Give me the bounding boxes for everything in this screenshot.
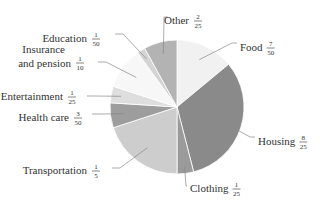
slice-name: Food xyxy=(240,41,263,53)
fraction-denominator: 50 xyxy=(75,119,83,127)
fraction-numerator: 1 xyxy=(94,31,98,39)
slice-label: Insuranceand pension110 xyxy=(18,43,84,72)
slice-label: Transportation15 xyxy=(23,163,100,180)
slice-label: Health care350 xyxy=(19,110,82,127)
slice-name: Other xyxy=(164,14,189,26)
pie-chart: Food750Housing825Clothing125Transportati… xyxy=(0,0,320,208)
fraction-numerator: 1 xyxy=(235,181,239,189)
slice-name: and pension xyxy=(18,57,71,69)
slice-name: Health care xyxy=(19,111,69,123)
slice-label: Food750 xyxy=(240,40,275,57)
fraction-denominator: 50 xyxy=(93,40,101,48)
slice-label: Entertainment125 xyxy=(1,89,76,106)
pie-slices xyxy=(110,40,244,174)
slice-label: Other225 xyxy=(164,13,202,30)
slice-label: Clothing125 xyxy=(190,181,241,198)
fraction-denominator: 5 xyxy=(94,172,98,180)
fraction-denominator: 10 xyxy=(77,64,85,72)
fraction-numerator: 3 xyxy=(76,110,80,118)
fraction-numerator: 7 xyxy=(269,40,273,48)
slice-name: Education xyxy=(42,32,87,44)
slice-name: Housing xyxy=(258,135,296,147)
fraction-denominator: 25 xyxy=(300,143,308,151)
fraction-numerator: 1 xyxy=(70,89,74,97)
slice-name: Insurance xyxy=(22,43,65,55)
fraction-numerator: 1 xyxy=(78,55,82,63)
slice-label: Housing825 xyxy=(258,134,307,151)
fraction-denominator: 25 xyxy=(233,190,241,198)
slice-name: Transportation xyxy=(23,164,88,176)
fraction-denominator: 50 xyxy=(267,49,275,57)
fraction-denominator: 25 xyxy=(195,22,203,30)
fraction-numerator: 1 xyxy=(94,163,98,171)
fraction-denominator: 25 xyxy=(69,98,77,106)
fraction-numerator: 8 xyxy=(302,134,306,142)
slice-name: Entertainment xyxy=(1,90,63,102)
fraction-numerator: 2 xyxy=(196,13,200,21)
slice-name: Clothing xyxy=(190,182,229,194)
